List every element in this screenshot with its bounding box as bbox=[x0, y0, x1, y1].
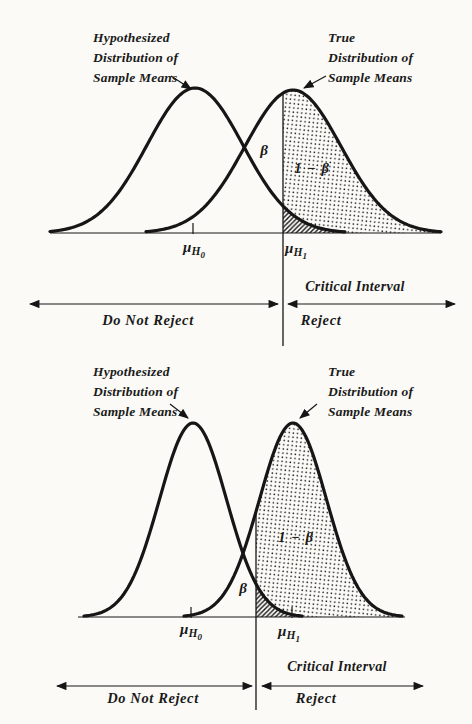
power-region bbox=[256, 423, 402, 617]
mu-sub-index: 1 bbox=[302, 251, 307, 261]
mu-sub-index: 1 bbox=[295, 634, 300, 644]
annotation-line: Hypothesized bbox=[93, 362, 178, 382]
reject-label: Reject bbox=[296, 690, 337, 707]
annotation-line: Sample Means bbox=[328, 402, 413, 422]
annotation-line: Sample Means bbox=[93, 402, 178, 422]
power-label: 1 − β bbox=[294, 160, 330, 177]
mu-sub-index: 0 bbox=[197, 632, 202, 642]
annotation-line: True bbox=[328, 362, 413, 382]
mu-h0-label: μH0 bbox=[183, 239, 205, 260]
panel-top bbox=[30, 76, 455, 346]
do-not-reject-label: Do Not Reject bbox=[107, 690, 199, 707]
mu-sub-h: H bbox=[188, 627, 197, 639]
mu-h1-label: μH1 bbox=[278, 623, 300, 644]
beta-label: β bbox=[260, 142, 268, 159]
annotation-line: Sample Means bbox=[328, 68, 413, 88]
hypothesized-annotation: Hypothesized Distribution of Sample Mean… bbox=[93, 362, 178, 422]
beta-label: β bbox=[239, 580, 247, 597]
true-pointer-arrow bbox=[300, 404, 317, 418]
annotation-line: Distribution of bbox=[328, 382, 413, 402]
figure: Hypothesized Distribution of Sample Mean… bbox=[0, 0, 472, 724]
annotation-line: Distribution of bbox=[328, 48, 413, 68]
true-annotation: True Distribution of Sample Means bbox=[328, 362, 413, 422]
annotation-line: Hypothesized bbox=[93, 28, 178, 48]
do-not-reject-label: Do Not Reject bbox=[102, 312, 194, 329]
mu-sub-h: H bbox=[293, 246, 302, 258]
hypothesized-annotation: Hypothesized Distribution of Sample Mean… bbox=[93, 28, 178, 88]
mu-h1-label: μH1 bbox=[285, 240, 307, 261]
annotation-line: Distribution of bbox=[93, 48, 178, 68]
reject-label: Reject bbox=[301, 312, 342, 329]
critical-interval-label: Critical Interval bbox=[305, 279, 405, 295]
power-label: 1 − β bbox=[278, 529, 314, 546]
critical-interval-label: Critical Interval bbox=[287, 659, 387, 675]
annotation-line: Distribution of bbox=[93, 382, 178, 402]
annotation-line: Sample Means bbox=[93, 68, 178, 88]
mu-h0-label: μH0 bbox=[180, 621, 202, 642]
annotation-line: True bbox=[328, 28, 413, 48]
mu-sub-h: H bbox=[286, 629, 295, 641]
true-pointer-arrow bbox=[304, 76, 326, 88]
mu-sub-index: 0 bbox=[200, 250, 205, 260]
mu-sub-h: H bbox=[191, 245, 200, 257]
true-annotation: True Distribution of Sample Means bbox=[328, 28, 413, 88]
